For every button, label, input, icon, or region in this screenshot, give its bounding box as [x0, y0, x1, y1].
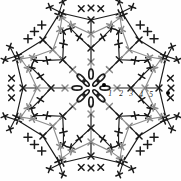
round-number-label-5: 5 [149, 90, 153, 99]
round-number-label-3: 3 [128, 89, 133, 98]
round-number-label-1: 1 [108, 89, 112, 98]
pattern-chart-svg: 12345 [0, 0, 181, 181]
round-number-label-2: 2 [119, 89, 123, 98]
crochet-pattern-diagram: 12345 [0, 0, 181, 181]
start-dot [102, 83, 106, 87]
end-dot [166, 91, 170, 95]
round-number-label-4: 4 [139, 90, 143, 99]
